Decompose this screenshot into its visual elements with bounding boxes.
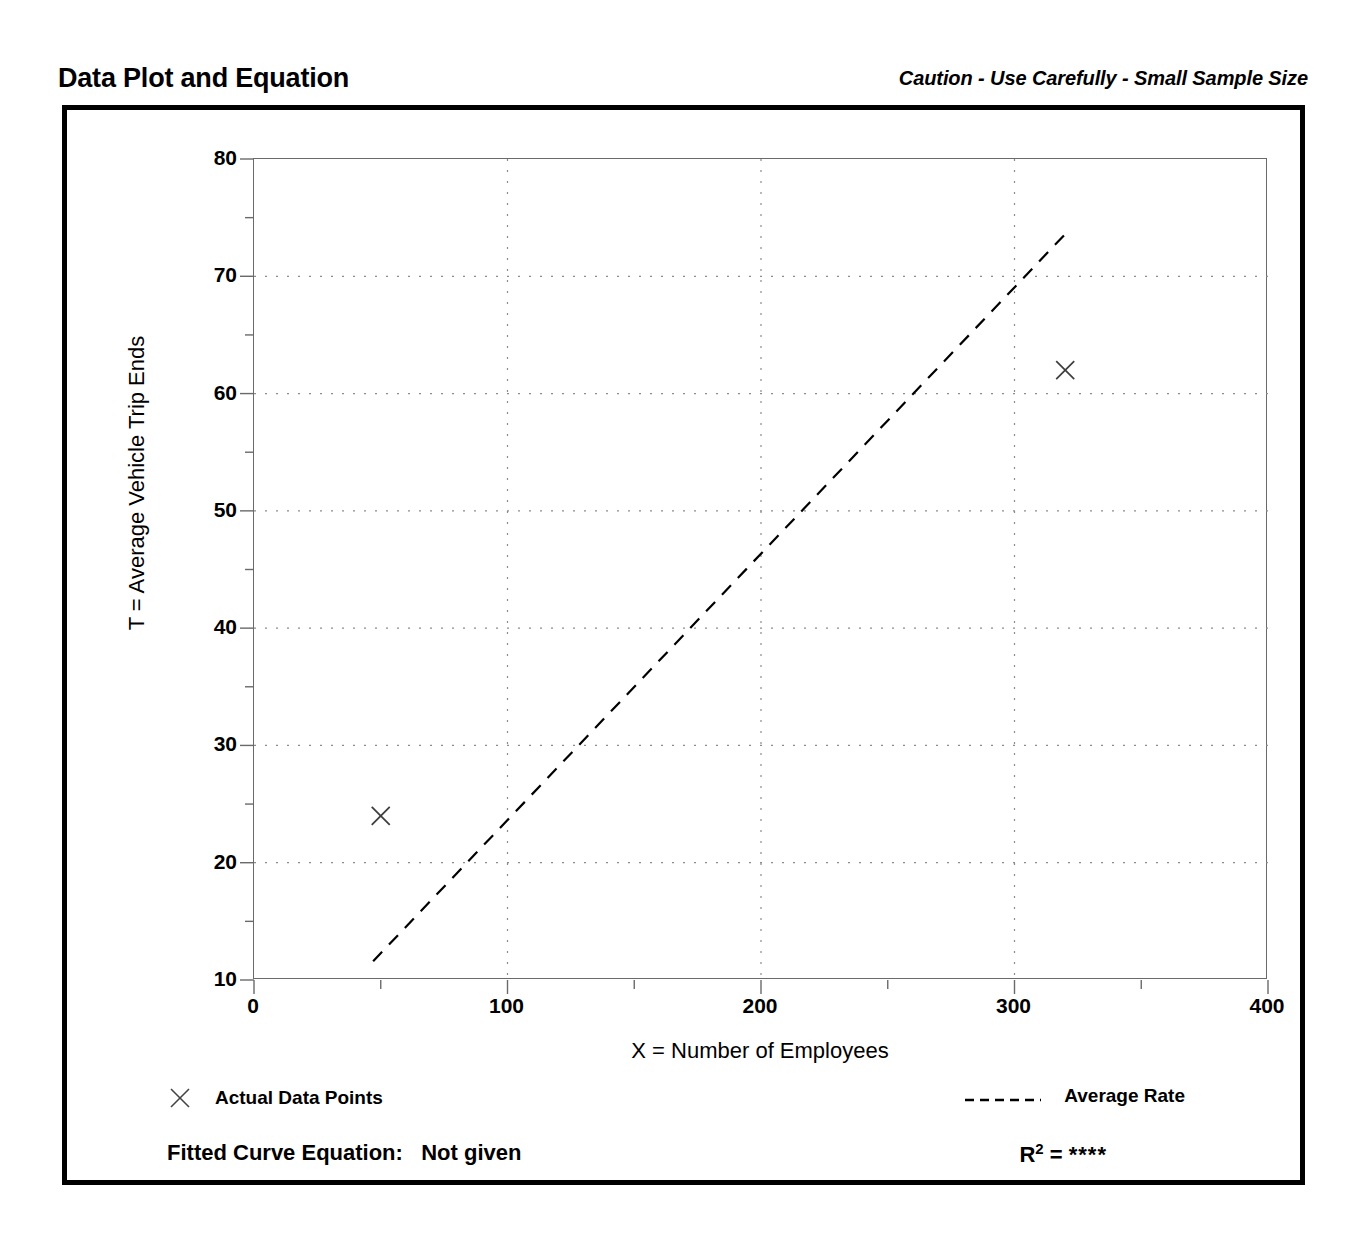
page-header: Data Plot and Equation Caution - Use Car… xyxy=(58,56,1308,100)
plot-canvas xyxy=(254,159,1268,980)
y-tick-label: 50 xyxy=(214,498,237,522)
data-point-marker xyxy=(1056,361,1074,379)
y-tick-label: 40 xyxy=(214,615,237,639)
dashed-line-icon xyxy=(964,1091,1042,1101)
x-axis-tick-labels: 0100200300400 xyxy=(253,994,1267,1024)
legend-item-average-rate: Average Rate xyxy=(964,1085,1185,1107)
average-rate-line xyxy=(373,234,1065,961)
caution-note: Caution - Use Carefully - Small Sample S… xyxy=(899,67,1308,90)
x-tick-label: 100 xyxy=(489,994,524,1018)
y-tick-label: 60 xyxy=(214,381,237,405)
r-squared-stars: **** xyxy=(1069,1142,1107,1167)
y-axis-title: T = Average Vehicle Trip Ends xyxy=(124,163,150,803)
x-tick-label: 200 xyxy=(742,994,777,1018)
x-tick-label: 0 xyxy=(247,994,259,1018)
data-point-marker xyxy=(372,807,390,825)
y-tick-label: 70 xyxy=(214,263,237,287)
x-axis-title: X = Number of Employees xyxy=(253,1038,1267,1064)
y-axis-tick-labels: 1020304050607080 xyxy=(185,158,237,979)
r-squared-value: R2 = **** xyxy=(1019,1140,1107,1168)
x-marker-icon xyxy=(167,1085,193,1111)
r-squared-exponent: 2 xyxy=(1035,1140,1043,1157)
r-squared-label: R xyxy=(1019,1142,1035,1167)
page-title: Data Plot and Equation xyxy=(58,63,349,94)
fitted-curve-equation: Fitted Curve Equation: Not given xyxy=(167,1140,521,1166)
legend-label-actual-data-points: Actual Data Points xyxy=(215,1087,383,1109)
y-tick-label: 80 xyxy=(214,146,237,170)
x-tick-label: 300 xyxy=(996,994,1031,1018)
chart-panel: 1020304050607080 T = Average Vehicle Tri… xyxy=(62,105,1305,1185)
x-tick-label: 400 xyxy=(1249,994,1284,1018)
chart-legend: Actual Data Points Average Rate xyxy=(157,1085,1227,1121)
r-squared-equals: = xyxy=(1044,1142,1069,1167)
y-tick-label: 30 xyxy=(214,732,237,756)
fitted-curve-value: Not given xyxy=(421,1140,521,1165)
y-tick-label: 20 xyxy=(214,850,237,874)
plot-area xyxy=(253,158,1267,979)
y-tick-label: 10 xyxy=(214,967,237,991)
gridlines xyxy=(254,159,1268,980)
legend-label-average-rate: Average Rate xyxy=(1064,1085,1185,1107)
equation-row: Fitted Curve Equation: Not given R2 = **… xyxy=(157,1140,1227,1180)
fitted-curve-label: Fitted Curve Equation: xyxy=(167,1140,403,1165)
average-rate-trendline xyxy=(373,234,1065,961)
legend-item-actual-data-points: Actual Data Points xyxy=(167,1085,383,1111)
axis-ticks xyxy=(240,159,1268,994)
